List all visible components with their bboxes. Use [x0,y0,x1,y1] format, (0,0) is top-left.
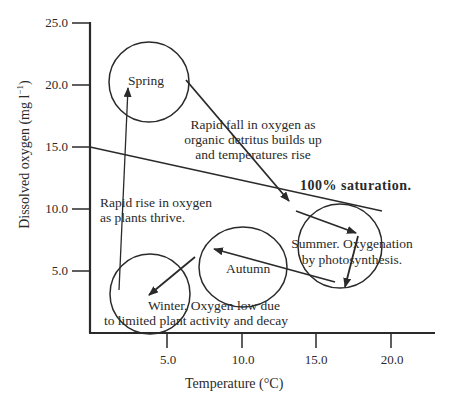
y-axis-label: Dissolved oxygen (mg l−1) [15,69,33,229]
x-tick-15: 15.0 [305,352,328,368]
autumn-label: Autumn [226,261,270,276]
y-axis-label-text: Dissolved oxygen (mg l [17,95,32,229]
rise-annotation-line1: Rapid rise in oxygen [100,195,212,210]
fall-annotation-line1: Rapid fall in oxygen as [190,117,315,132]
y-tick-5: 5.0 [24,263,68,279]
winter-label-line1: Winter. Oxygen low due [148,298,280,313]
arrow-autumn-to-winter [149,257,195,295]
x-tick-10: 10.0 [232,352,255,368]
rise-annotation-line2: as plants thrive. [100,210,185,225]
x-tick-20: 20.0 [381,352,404,368]
winter-label-line2: to limited plant activity and decay [104,313,288,328]
spring-label: Spring [128,73,164,88]
saturation-label: 100% saturation. [300,178,411,193]
fall-annotation-line2: organic detritus builds up [184,132,321,147]
y-axis-label-end: ) [17,80,32,85]
arrow-winter-to-spring [119,88,128,290]
fall-annotation-line3: and temperatures rise [195,147,310,162]
summer-label-line1: Summer. Oxygenation [291,236,413,251]
x-tick-5: 5.0 [160,352,176,368]
x-axis-label: Temperature (°C) [185,376,283,391]
summer-label-line2: by photosynthesis. [302,252,403,267]
y-tick-25: 25.0 [24,15,68,31]
y-axis-label-sup: −1 [15,85,25,95]
